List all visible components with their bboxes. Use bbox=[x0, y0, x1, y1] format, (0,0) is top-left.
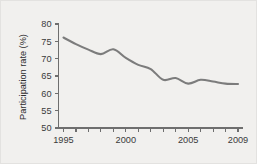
data-series-line bbox=[63, 38, 238, 84]
x-tick-label: 2009 bbox=[228, 135, 248, 145]
y-axis-title-text: Participation rate (%) bbox=[18, 34, 28, 120]
x-tick-label: 2000 bbox=[116, 135, 136, 145]
y-tick-label: 65 bbox=[41, 71, 51, 81]
y-tick-label: 60 bbox=[41, 89, 51, 99]
x-axis-ticks: 1995200020052009 bbox=[53, 128, 248, 145]
x-tick-label: 2005 bbox=[178, 135, 198, 145]
x-tick-label: 1995 bbox=[53, 135, 73, 145]
y-tick-label: 55 bbox=[41, 106, 51, 116]
y-tick-label: 50 bbox=[41, 123, 51, 133]
y-axis-title: Participation rate (%) bbox=[18, 34, 28, 120]
line-chart: Participation rate (%) 50556065707580 19… bbox=[1, 1, 257, 164]
y-tick-label: 80 bbox=[41, 19, 51, 29]
y-axis-ticks: 50556065707580 bbox=[41, 19, 58, 133]
y-tick-label: 70 bbox=[41, 54, 51, 64]
y-tick-label: 75 bbox=[41, 37, 51, 47]
chart-figure: Participation rate (%) 50556065707580 19… bbox=[0, 0, 257, 164]
